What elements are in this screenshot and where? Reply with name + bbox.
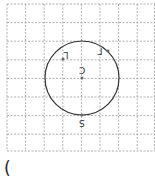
label-center: C: [79, 65, 85, 75]
parenthesis-text: (: [4, 160, 11, 177]
label-right: Γ: [97, 46, 102, 56]
point-center: [81, 77, 84, 80]
label-bottom: S: [79, 118, 85, 128]
point-right: [107, 50, 110, 53]
grid-diagram: L Γ C S: [0, 0, 155, 182]
point-bottom: [81, 114, 84, 117]
label-left: L: [63, 50, 68, 60]
